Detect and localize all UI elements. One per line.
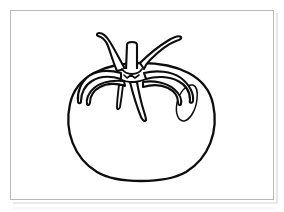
tomato-stem xyxy=(126,42,137,70)
drawing-canvas: Line drawing of a ripe tomato with a fiv… xyxy=(0,0,284,212)
tomato-artwork xyxy=(0,0,284,212)
